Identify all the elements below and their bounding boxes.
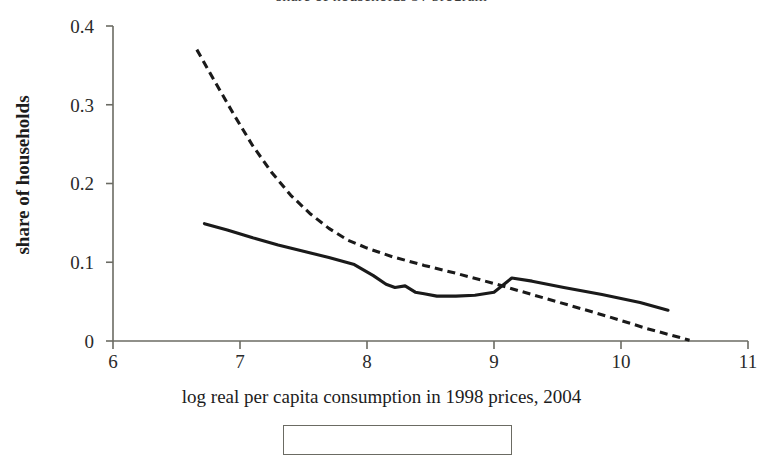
y-tick-label-0: 0 [34,331,94,353]
chart-title: share of households by program [0,0,763,1]
y-tick-label-0.4: 0.4 [34,16,94,38]
x-tick-label-9: 9 [474,351,514,373]
x-axis-label: log real per capita consumption in 1998 … [0,386,763,408]
y-tick-label-0.1: 0.1 [34,252,94,274]
x-tick-label-6: 6 [93,351,133,373]
x-axis-ticks [113,341,748,349]
y-axis-ticks [106,26,113,341]
x-tick-label-11: 11 [728,351,763,373]
x-tick-label-8: 8 [347,351,387,373]
y-tick-label-0.3: 0.3 [34,95,94,117]
x-tick-label-10: 10 [601,351,641,373]
y-axis-label: share of households [12,65,34,285]
y-tick-label-0.2: 0.2 [34,173,94,195]
x-tick-label-7: 7 [220,351,260,373]
legend-box [283,425,512,455]
